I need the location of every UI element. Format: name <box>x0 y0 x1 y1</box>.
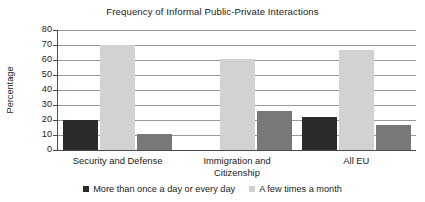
legend-entry[interactable]: More than once a day or every day <box>83 184 235 194</box>
bar-chart: Frequency of Informal Public-Private Int… <box>0 0 425 202</box>
y-axis-tick-mark <box>53 90 58 91</box>
x-axis-category-label-line: Security and Defense <box>58 155 177 167</box>
plot-area <box>58 30 416 150</box>
legend-swatch-icon <box>249 186 255 192</box>
y-axis-title-text: Percentage <box>4 67 14 114</box>
bar <box>302 117 337 150</box>
x-axis-category-label-line: All EU <box>297 155 416 167</box>
y-axis-tick-label: 0 <box>26 145 52 154</box>
bar <box>63 120 98 150</box>
y-axis-tick-mark <box>53 120 58 121</box>
x-axis-category-label: Security and Defense <box>58 155 177 167</box>
chart-legend: More than once a day or every dayA few t… <box>0 184 425 194</box>
y-axis-tick-label: 40 <box>26 85 52 94</box>
bar <box>339 50 374 151</box>
y-axis-tick-mark <box>53 30 58 31</box>
x-axis-category-label-line: Immigration and <box>177 155 296 167</box>
y-axis-tick-mark <box>53 45 58 46</box>
y-axis-tick-label: 20 <box>26 115 52 124</box>
x-axis-baseline <box>58 150 416 151</box>
legend-label: More than once a day or every day <box>93 184 235 194</box>
y-axis-tick-label: 30 <box>26 100 52 109</box>
bar <box>376 125 411 151</box>
legend-entry[interactable]: A few times a month <box>249 184 342 194</box>
bar <box>137 134 172 150</box>
y-axis-tick-mark <box>53 75 58 76</box>
y-axis-tick-label: 80 <box>26 25 52 34</box>
y-axis-tick-mark <box>53 105 58 106</box>
y-axis-tick-mark <box>53 60 58 61</box>
bar <box>220 59 255 151</box>
y-axis-tick-label: 70 <box>26 40 52 49</box>
legend-swatch-icon <box>83 186 89 192</box>
y-axis-tick-mark <box>53 135 58 136</box>
y-axis-tick-label: 10 <box>26 130 52 139</box>
y-axis-tick-mark <box>53 150 58 151</box>
chart-title: Frequency of Informal Public-Private Int… <box>0 6 425 17</box>
y-axis-tick-label: 50 <box>26 70 52 79</box>
y-axis-title: Percentage <box>2 40 16 140</box>
x-axis-category-label: All EU <box>297 155 416 167</box>
legend-label: A few times a month <box>259 184 342 194</box>
bar <box>100 45 135 150</box>
bar <box>257 111 292 150</box>
y-axis-tick-label: 60 <box>26 55 52 64</box>
x-axis-category-label: Immigration andCitizenship <box>177 155 296 178</box>
gridline <box>58 30 416 31</box>
x-axis-category-label-line: Citizenship <box>177 167 296 179</box>
y-axis-tick-labels: 80706050403020100 <box>20 0 52 202</box>
